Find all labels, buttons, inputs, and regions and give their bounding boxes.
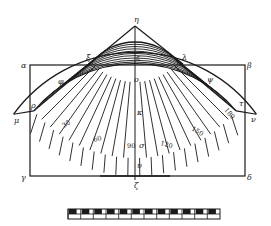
label-psi: ψ <box>207 75 214 84</box>
label-alpha: α <box>21 61 27 70</box>
scale-bar-segment <box>158 209 166 214</box>
label-xi: ξ <box>86 53 91 62</box>
hatch-line <box>70 143 73 162</box>
label-eta: η <box>134 15 139 24</box>
hatch-line <box>59 137 63 156</box>
hatch-line <box>214 131 219 150</box>
hatch-line <box>92 152 94 170</box>
fan-edge <box>34 62 92 111</box>
scale-bar-segment <box>145 209 153 214</box>
label-tau: τ <box>239 99 244 108</box>
hatch-line <box>104 155 105 173</box>
fan-edge <box>178 62 236 111</box>
label-phi: φ <box>58 77 64 86</box>
scale-bar-segment <box>69 209 77 214</box>
label-zeta: ζ <box>134 181 139 190</box>
label-nu: ν <box>251 115 256 124</box>
scale-bar-segment <box>208 209 216 214</box>
hatch-line <box>49 130 54 149</box>
hatch-line <box>174 152 176 170</box>
label-lambda: λ <box>181 53 187 62</box>
label-mu: μ <box>14 116 19 125</box>
meridian-line <box>175 66 229 120</box>
meridian-line <box>42 66 96 120</box>
hatch-line <box>116 157 117 175</box>
label-kappa: κ <box>136 108 143 117</box>
scale-bar-segment <box>196 209 204 214</box>
scale-bar-segment <box>107 209 115 214</box>
meridian-label: 30 <box>61 118 72 129</box>
scale-bar-segment <box>120 209 128 214</box>
label-delta: δ <box>247 173 252 182</box>
scale-bar-segment <box>170 209 178 214</box>
scale-bar-segment <box>183 209 191 214</box>
label-epsilon: ε <box>136 53 140 62</box>
scale-bar-segment <box>132 209 140 214</box>
hatch-line <box>205 138 209 157</box>
hatch-line <box>223 124 228 143</box>
hatch-line <box>162 155 163 173</box>
meridian-line <box>145 81 158 156</box>
hatch-line <box>151 157 152 175</box>
meridian-label: 120 <box>159 139 173 150</box>
label-upsilon: υ <box>137 161 142 170</box>
meridian-line <box>112 81 125 156</box>
label-omicron: ο <box>134 75 139 84</box>
meridian-line <box>167 72 211 134</box>
hatch-line <box>195 144 198 163</box>
label-rho: ρ <box>30 101 36 110</box>
scale-bar-segment <box>82 209 90 214</box>
hatch-line <box>184 148 187 166</box>
meridian-label: 90 <box>127 142 135 150</box>
scale-bar-segment <box>94 209 102 214</box>
label-sigma: σ <box>139 141 145 150</box>
hatch-line <box>40 123 46 142</box>
meridian-label: 150 <box>190 125 205 138</box>
meridian-line <box>69 75 107 141</box>
hatch-line <box>81 148 84 166</box>
label-gamma: γ <box>21 173 26 182</box>
band-edge <box>14 111 34 114</box>
meridian-line <box>101 80 121 153</box>
label-beta: β <box>246 61 252 70</box>
band-edge <box>236 111 256 114</box>
hatch-line <box>31 114 37 133</box>
projection-diagram: ηξλαβγδεοκσυζρτμνφψ306090120150180 <box>0 0 271 226</box>
meridian-label: 60 <box>92 134 102 144</box>
